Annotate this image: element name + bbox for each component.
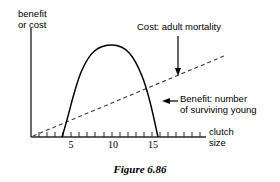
x-tick-label-15: 15 — [144, 139, 162, 150]
y-axis-label-line2: or cost — [18, 19, 47, 30]
figure-caption: Figure 6.86 — [0, 163, 280, 175]
y-axis-label-line1: benefit — [18, 8, 47, 19]
benefit-annotation-line1: Benefit: number — [180, 93, 257, 104]
benefit-curve — [62, 45, 158, 137]
cost-annotation-label: Cost: adult mortality — [137, 21, 221, 32]
benefit-annotation-line2: of surviving young — [180, 104, 257, 115]
benefit-annotation-label: Benefit: number of surviving young — [180, 93, 257, 115]
y-axis-label: benefit or cost — [18, 8, 47, 30]
benefit-arrow — [162, 98, 178, 104]
x-axis-label-line1: clutch — [209, 126, 234, 137]
x-tick-label-5: 5 — [64, 139, 78, 150]
x-axis-label: clutch size — [209, 126, 234, 148]
x-axis-label-line2: size — [209, 137, 234, 148]
x-tick-label-10: 10 — [104, 139, 122, 150]
cost-arrow — [175, 36, 181, 76]
figure-container: benefit or cost clutch size Cost: adult … — [0, 0, 280, 182]
